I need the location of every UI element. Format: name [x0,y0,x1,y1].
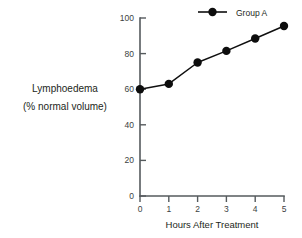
data-point-4 [251,34,259,42]
x-tick-label-1: 1 [166,204,171,214]
x-axis-title: Hours After Treatment [166,219,259,230]
y-tick-label-60: 60 [125,84,135,94]
legend: Group A [198,8,268,18]
series-line-group-a [140,26,284,89]
y-axis-title-line1: Lymphoedema [32,83,98,94]
x-tick-label-2: 2 [195,204,200,214]
y-tick-label-20: 20 [125,155,135,165]
y-axis-title-line2: (% normal volume) [23,101,107,112]
data-point-5 [280,22,288,30]
legend-marker-group-a [208,8,216,16]
chart-canvas: 100 80 60 40 20 0 0 1 2 3 4 5 Group [0,0,302,238]
x-tick-label-0: 0 [138,204,143,214]
x-tick-label-4: 4 [253,204,258,214]
x-tick-label-3: 3 [224,204,229,214]
y-tick-label-100: 100 [120,13,134,23]
lymphoedema-line-chart: 100 80 60 40 20 0 0 1 2 3 4 5 Group [0,0,302,238]
data-point-2 [193,58,201,66]
legend-label-group-a: Group A [236,8,268,18]
y-tick-label-80: 80 [125,49,135,59]
data-point-3 [222,47,230,55]
data-point-1 [165,80,173,88]
x-tick-label-5: 5 [282,204,287,214]
y-tick-label-40: 40 [125,120,135,130]
y-tick-label-0: 0 [129,191,134,201]
data-point-0 [136,85,144,93]
